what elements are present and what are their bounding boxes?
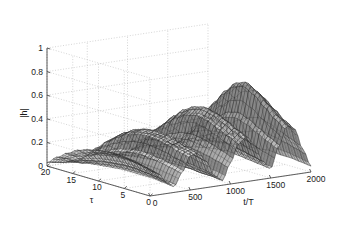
- z-tick-label: 0.6: [31, 90, 43, 100]
- tau-tick-label: 5: [120, 190, 125, 200]
- z-tick-label: 0.2: [31, 137, 43, 147]
- z-tick-label: 1: [38, 43, 43, 53]
- x-tick-label: 2000: [307, 174, 326, 184]
- x-tick-label: 500: [188, 192, 202, 202]
- tau-tick-label: 15: [67, 175, 77, 185]
- x-tick-label: 0: [153, 198, 158, 208]
- surface-mesh: [47, 82, 311, 186]
- figure-3d-surface-plot: 00.20.40.60.81201510500500100015002000|h…: [0, 0, 339, 241]
- x-tick-label: 1000: [226, 186, 245, 196]
- z-tick-label: 0.8: [31, 67, 43, 77]
- tau-axis-title: τ: [90, 195, 94, 205]
- plot-canvas: 00.20.40.60.81201510500500100015002000|h…: [0, 0, 339, 241]
- tau-tick-label: 0: [146, 197, 151, 207]
- z-axis-title: |h|: [19, 108, 29, 118]
- x-axis-title: t/T: [243, 197, 254, 207]
- tau-tick-label: 10: [92, 182, 102, 192]
- z-tick-label: 0.4: [31, 114, 43, 124]
- tau-tick-label: 20: [41, 167, 51, 177]
- x-tick-label: 1500: [266, 180, 285, 190]
